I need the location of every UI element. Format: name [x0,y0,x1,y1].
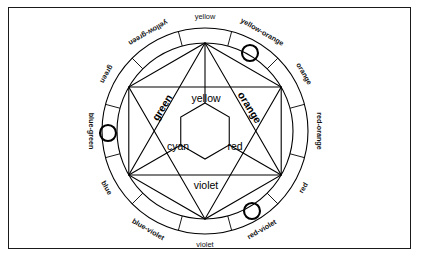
inner-label-cyan: cyan [167,140,189,152]
ring-divider-orange [267,58,278,69]
ring-label-orange: orange [294,61,314,86]
inner-geometry [129,43,281,219]
ring-divider-violet [228,216,232,230]
color-wheel-diagram: yellowyellow-orangeorangered-orangeredre… [0,0,421,258]
inner-label-red: red [227,140,242,152]
ring-label-blue: blue [99,179,114,196]
ring-labels: yellowyellow-orangeorangered-orangeredre… [87,12,324,249]
inner-label-yellow: yellow [191,92,221,104]
ring-label-blue-violet: blue-violet [130,216,166,242]
ring-divider-blue-violet [178,216,182,230]
marker-yellow-orange [242,45,258,61]
ring-label-red-orange: red-orange [315,112,324,150]
ring-label-red: red [297,181,310,195]
inner-label-green: green [149,92,174,123]
ring-label-red-violet: red-violet [245,217,278,241]
ring-label-blue-green: blue-green [87,113,96,150]
ring-label-violet: violet [196,240,213,249]
highlight-markers [100,45,260,219]
ring-divider-yellow-green [132,58,143,69]
ring-label-yellow-orange: yellow-orange [239,16,285,48]
ring-label-green: green [98,64,116,85]
ring-label-yellow-green: yellow-green [127,18,170,48]
color-wheel-figure: yellowyellow-orangeorangered-orangeredre… [0,0,421,258]
ring-divider-blue-green [106,154,120,158]
ring-divider-yellow [178,32,182,46]
ring-divider-green [106,104,120,108]
inner-label-violet: violet [194,179,219,191]
ring-divider-blue [132,193,143,204]
ring-divider-yellow-orange [228,32,232,46]
ring-divider-red-orange [290,104,304,108]
ring-divider-red-violet [267,193,278,204]
secondary-triangle [129,87,281,219]
ring-label-yellow: yellow [195,12,216,21]
ring-divider-red [290,154,304,158]
